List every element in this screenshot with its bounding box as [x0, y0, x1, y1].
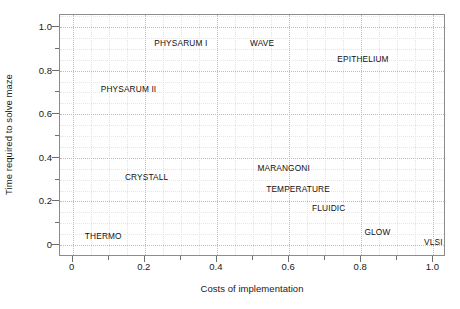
- grid-line-horizontal-major: [60, 245, 444, 246]
- data-point-label: VLSI: [424, 238, 443, 246]
- y-axis-tick: [52, 70, 59, 71]
- grid-line-vertical-major: [217, 15, 218, 255]
- data-point-label: CRYSTALL: [125, 173, 168, 181]
- grid-line-horizontal-minor: [60, 212, 444, 213]
- x-axis-tick-minor: [396, 256, 397, 260]
- grid-line-horizontal-minor: [60, 136, 444, 137]
- x-axis-tick-label: 0.8: [354, 261, 367, 272]
- grid-line-vertical-minor: [109, 15, 110, 255]
- data-point-label: TEMPERATURE: [266, 185, 330, 193]
- grid-line-vertical-minor: [91, 15, 92, 255]
- grid-line-horizontal-major: [60, 114, 444, 115]
- y-axis-tick: [52, 157, 59, 158]
- grid-line-vertical-minor: [127, 15, 128, 255]
- grid-line-vertical-minor: [235, 15, 236, 255]
- x-axis-tick: [432, 256, 433, 262]
- grid-line-vertical-minor: [181, 15, 182, 255]
- grid-line-horizontal-major: [60, 27, 444, 28]
- x-axis-tick-label: 0.4: [209, 261, 222, 272]
- x-axis-tick-minor: [108, 256, 109, 260]
- y-axis-tick: [52, 113, 59, 114]
- y-axis-tick: [52, 26, 59, 27]
- scatter-plot-figure: Time required to solve maze Costs of imp…: [0, 0, 460, 309]
- x-axis-tick: [72, 256, 73, 262]
- data-point-label: PHYSARUM II: [101, 85, 157, 93]
- grid-line-horizontal-minor: [60, 82, 444, 83]
- data-point-label: GLOW: [364, 228, 390, 236]
- data-point-label: FLUIDIC: [312, 204, 345, 212]
- grid-line-vertical-minor: [379, 15, 380, 255]
- x-axis-title: Costs of implementation: [59, 283, 445, 294]
- grid-line-horizontal-minor: [60, 191, 444, 192]
- data-point-label: EPITHELIUM: [337, 54, 388, 62]
- grid-line-vertical-minor: [325, 15, 326, 255]
- x-axis-tick: [360, 256, 361, 262]
- x-axis-tick: [288, 256, 289, 262]
- y-axis-tick: [52, 244, 59, 245]
- y-axis-tick-label: 0: [24, 239, 52, 250]
- grid-line-horizontal-minor: [60, 103, 444, 104]
- grid-line-horizontal-major: [60, 71, 444, 72]
- grid-line-vertical-major: [433, 15, 434, 255]
- y-axis-tick-label: 1.0: [24, 20, 52, 31]
- data-point-label: THERMO: [85, 232, 122, 240]
- x-axis-tick-label: 0.6: [281, 261, 294, 272]
- x-axis-tick-label: 1.0: [426, 261, 439, 272]
- data-point-label: WAVE: [250, 39, 274, 47]
- plot-area: PHYSARUM IWAVEEPITHELIUMPHYSARUM IIMARAN…: [59, 14, 445, 256]
- x-axis-tick: [216, 256, 217, 262]
- grid-line-horizontal-major: [60, 201, 444, 202]
- grid-line-vertical-major: [289, 15, 290, 255]
- grid-line-horizontal-minor: [60, 125, 444, 126]
- y-axis-tick-label: 0.4: [24, 151, 52, 162]
- grid-line-vertical-minor: [271, 15, 272, 255]
- grid-line-vertical-major: [73, 15, 74, 255]
- grid-line-horizontal-minor: [60, 49, 444, 50]
- x-axis-tick-minor: [252, 256, 253, 260]
- y-axis-title: Time required to solve maze: [0, 0, 16, 269]
- grid-line-vertical-minor: [199, 15, 200, 255]
- grid-line-vertical-major: [361, 15, 362, 255]
- grid-line-vertical-major: [145, 15, 146, 255]
- grid-line-horizontal-minor: [60, 223, 444, 224]
- y-axis-tick-label: 0.6: [24, 108, 52, 119]
- data-point-label: MARANGONI: [257, 163, 310, 171]
- y-axis-tick: [52, 200, 59, 201]
- grid-line-horizontal-minor: [60, 16, 444, 17]
- grid-line-vertical-minor: [163, 15, 164, 255]
- grid-line-vertical-minor: [397, 15, 398, 255]
- grid-line-vertical-minor: [253, 15, 254, 255]
- grid-line-horizontal-major: [60, 158, 444, 159]
- y-axis-tick-label: 0.2: [24, 195, 52, 206]
- x-axis-tick-minor: [324, 256, 325, 260]
- y-axis-title-text: Time required to solve maze: [3, 74, 14, 195]
- x-axis-tick-label: 0.2: [137, 261, 150, 272]
- y-axis-tick-label: 0.8: [24, 64, 52, 75]
- grid-line-horizontal-minor: [60, 169, 444, 170]
- x-axis-tick-minor: [180, 256, 181, 260]
- grid-line-vertical-minor: [307, 15, 308, 255]
- x-axis-tick-label: 0: [69, 261, 74, 272]
- data-point-label: PHYSARUM I: [154, 39, 207, 47]
- grid-line-horizontal-minor: [60, 180, 444, 181]
- x-axis-tick: [144, 256, 145, 262]
- grid-line-vertical-minor: [343, 15, 344, 255]
- grid-line-vertical-minor: [415, 15, 416, 255]
- grid-line-horizontal-minor: [60, 147, 444, 148]
